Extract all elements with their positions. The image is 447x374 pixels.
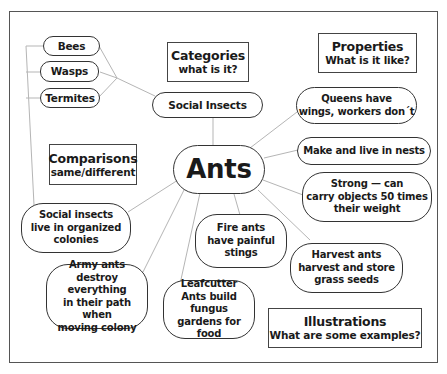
node-strong-line3: their weight xyxy=(334,203,401,216)
illustrations-subtitle: What are some examples? xyxy=(270,329,421,342)
categories-box: Categories what is it? xyxy=(167,42,249,82)
node-army-ants-line3: in their path when xyxy=(47,297,147,322)
node-harvest-ants-line1: Harvest ants xyxy=(312,249,382,262)
node-harvest-ants: Harvest ants harvest and store grass see… xyxy=(290,243,403,293)
node-social-insects-label: Social Insects xyxy=(168,99,246,112)
central-topic-ants: Ants xyxy=(173,145,265,194)
node-fire-ants-line1: Fire ants xyxy=(217,222,265,235)
central-topic-label: Ants xyxy=(186,163,252,176)
node-social-colonies: Social insects live in organized colonie… xyxy=(21,203,131,253)
node-leafcutter-ants: Leafcutter Ants build fungus gardens for… xyxy=(163,280,255,339)
node-queens-line1: Queens have xyxy=(321,93,392,106)
node-leafcutter-line1: Leafcutter xyxy=(181,278,238,291)
node-wasps: Wasps xyxy=(40,61,99,82)
node-bees: Bees xyxy=(43,36,100,56)
node-social-colonies-line3: colonies xyxy=(54,234,99,247)
node-fire-ants-line3: stings xyxy=(224,247,257,260)
node-leafcutter-line2: Ants build fungus xyxy=(164,291,254,316)
node-strong-line2: carry objects 50 times xyxy=(306,191,427,204)
properties-box: Properties What is it like? xyxy=(318,33,417,73)
properties-subtitle: What is it like? xyxy=(325,54,410,67)
node-strong: Strong — can carry objects 50 times thei… xyxy=(302,172,432,222)
node-army-ants: Army ants destroy everything in their pa… xyxy=(46,264,148,329)
comparisons-box: Comparisons same/different xyxy=(49,144,137,185)
properties-title: Properties xyxy=(332,39,404,54)
node-termites-label: Termites xyxy=(45,92,94,105)
node-army-ants-line1: Army ants xyxy=(69,259,125,272)
node-harvest-ants-line3: grass seeds xyxy=(314,274,379,287)
categories-title: Categories xyxy=(171,48,245,63)
node-army-ants-line2: destroy everything xyxy=(47,272,147,297)
node-nests: Make and live in nests xyxy=(297,137,431,165)
node-leafcutter-line3: gardens for food xyxy=(164,316,254,341)
node-social-colonies-line1: Social insects xyxy=(39,209,113,222)
node-strong-line1: Strong — can xyxy=(331,178,403,191)
node-social-insects: Social Insects xyxy=(152,92,263,118)
node-bees-label: Bees xyxy=(58,40,86,53)
comparisons-subtitle: same/different xyxy=(51,166,136,179)
illustrations-box: Illustrations What are some examples? xyxy=(268,308,422,348)
node-termites: Termites xyxy=(40,88,100,108)
node-fire-ants-line2: have painful xyxy=(207,235,275,248)
illustrations-title: Illustrations xyxy=(304,314,387,329)
node-queens: Queens have wings, workers don´t xyxy=(296,87,417,124)
node-queens-line2: wings, workers don´t xyxy=(299,106,415,119)
node-harvest-ants-line2: harvest and store xyxy=(298,262,395,275)
comparisons-title: Comparisons xyxy=(49,151,138,166)
node-army-ants-line4: moving colony xyxy=(57,322,136,335)
node-social-colonies-line2: live in organized xyxy=(31,222,121,235)
node-nests-label: Make and live in nests xyxy=(303,145,425,158)
node-fire-ants: Fire ants have painful stings xyxy=(195,214,287,268)
node-wasps-label: Wasps xyxy=(51,65,88,78)
categories-subtitle: what is it? xyxy=(179,63,238,76)
